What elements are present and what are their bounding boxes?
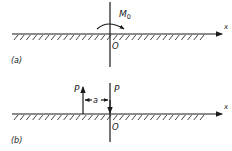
hatch-mark [132,115,136,120]
panel-b: P P a x O (b) [11,83,229,145]
hatch-mark [194,115,198,120]
hatch-mark [138,35,142,40]
hatch-mark [150,35,154,40]
hatch-mark [157,115,161,120]
hatch-mark [33,115,37,120]
hatch-mark [150,115,154,120]
hatch-mark [95,115,99,120]
ground-hatching [14,115,204,120]
hatch-mark [88,35,92,40]
hatch-mark [138,115,142,120]
hatch-mark [169,35,173,40]
hatch-mark [126,35,130,40]
hatch-mark [33,35,37,40]
hatch-mark [126,115,130,120]
hatch-mark [64,115,68,120]
hatch-mark [200,35,204,40]
hatch-mark [188,115,192,120]
hatch-mark [144,115,148,120]
hatch-mark [144,35,148,40]
hatch-mark [157,35,161,40]
hatch-mark [181,35,185,40]
hatch-mark [14,35,18,40]
hatch-mark [39,35,43,40]
hatch-mark [51,35,55,40]
x-axis-label: x [223,103,229,111]
hatch-mark [101,115,105,120]
panel-label: (a) [11,56,22,65]
hatch-mark [76,115,80,120]
hatch-mark [26,115,30,120]
hatch-mark [82,115,86,120]
hatch-mark [57,115,61,120]
panel-label: (b) [11,136,22,145]
moment-label: M0 [119,9,131,21]
hatch-mark [163,35,167,40]
hatch-mark [45,35,49,40]
hatch-mark [163,115,167,120]
hatch-mark [113,35,117,40]
hatch-mark [119,115,123,120]
hatch-mark [57,35,61,40]
hatch-mark [64,35,68,40]
hatch-mark [45,115,49,120]
diagram-canvas: M0 x O (a) P P a x O (b) [0,0,232,151]
hatch-mark [175,35,179,40]
origin-label: O [112,41,119,51]
hatch-mark [194,35,198,40]
hatch-mark [132,35,136,40]
hatch-mark [188,35,192,40]
panel-a: M0 x O (a) [11,2,229,67]
hatch-mark [51,115,55,120]
hatch-mark [14,115,18,120]
hatch-mark [26,35,30,40]
hatch-mark [113,115,117,120]
hatch-mark [95,35,99,40]
hatch-mark [181,115,185,120]
hatch-mark [20,35,24,40]
hatch-mark [70,115,74,120]
hatch-mark [70,35,74,40]
hatch-mark [119,35,123,40]
hatch-mark [76,35,80,40]
hatch-mark [169,115,173,120]
force-down-label: P [114,84,120,94]
origin-label: O [112,122,119,132]
hatch-mark [101,35,105,40]
hatch-mark [39,115,43,120]
hatch-mark [200,115,204,120]
hatch-mark [20,115,24,120]
hatch-mark [175,115,179,120]
hatch-mark [82,35,86,40]
x-axis-label: x [223,23,229,31]
ground-hatching [14,35,204,40]
hatch-mark [88,115,92,120]
separation-label: a [93,96,98,105]
force-up-label: P [74,84,80,94]
